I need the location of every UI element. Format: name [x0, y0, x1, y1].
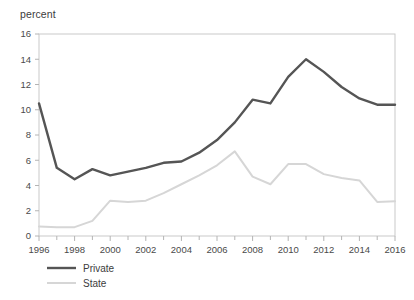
- x-axis-ticks: 1996199820002002200420062008201020122014…: [28, 236, 405, 255]
- x-tick-label: 2016: [384, 244, 405, 255]
- x-tick-label: 1998: [64, 244, 85, 255]
- y-tick-label: 4: [26, 180, 31, 191]
- y-tick-label: 16: [20, 28, 31, 39]
- x-tick-label: 2004: [171, 244, 192, 255]
- plot-frame: [39, 34, 395, 236]
- legend-label-state: State: [83, 278, 107, 289]
- chart-plot-area: 0246810121416 19961998200020022004200620…: [0, 0, 414, 300]
- y-tick-label: 2: [26, 205, 31, 216]
- x-tick-label: 1996: [28, 244, 49, 255]
- y-tick-label: 14: [20, 54, 31, 65]
- x-tick-label: 2012: [313, 244, 334, 255]
- y-tick-label: 6: [26, 155, 31, 166]
- series-line-private: [39, 59, 395, 179]
- series-lines: [39, 59, 395, 227]
- x-tick-label: 2000: [100, 244, 121, 255]
- y-tick-label: 12: [20, 79, 31, 90]
- y-tick-label: 0: [26, 230, 31, 241]
- legend-label-private: Private: [83, 263, 115, 274]
- x-tick-label: 2002: [135, 244, 156, 255]
- y-tick-label: 8: [26, 129, 31, 140]
- y-axis-ticks: 0246810121416: [20, 28, 39, 241]
- x-tick-label: 2014: [349, 244, 370, 255]
- x-tick-label: 2010: [278, 244, 299, 255]
- line-chart: percent 0246810121416 199619982000200220…: [0, 0, 414, 300]
- chart-legend: PrivateState: [47, 263, 115, 289]
- series-line-state: [39, 151, 395, 227]
- x-tick-label: 2008: [242, 244, 263, 255]
- y-tick-label: 10: [20, 104, 31, 115]
- x-tick-label: 2006: [206, 244, 227, 255]
